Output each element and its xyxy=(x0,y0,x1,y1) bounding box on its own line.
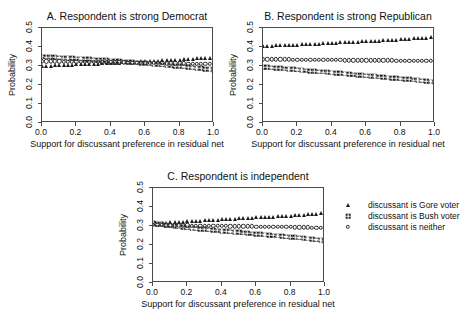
panel-title: B. Respondent is strong Republican xyxy=(262,10,434,22)
y-tick xyxy=(38,103,42,104)
x-tick xyxy=(152,282,153,286)
x-tick-label: 0.4 xyxy=(325,127,337,137)
y-tick-label: 0.0 xyxy=(245,116,255,128)
y-tick-label: 0.5 xyxy=(245,21,255,33)
x-tick-label: 0.4 xyxy=(104,127,116,137)
y-tick-label: 0.2 xyxy=(245,78,255,90)
x-tick xyxy=(331,122,332,126)
x-tick xyxy=(255,282,256,286)
plot-area xyxy=(152,187,324,282)
y-tick xyxy=(38,84,42,85)
x-tick-label: 0.0 xyxy=(146,287,158,297)
data-plane xyxy=(42,28,212,121)
y-tick xyxy=(149,282,153,283)
panel-title: C. Respondent is independent xyxy=(152,170,324,182)
y-axis-title: Probability xyxy=(7,53,17,95)
y-tick-label: 0.5 xyxy=(135,181,145,193)
y-tick xyxy=(149,206,153,207)
x-tick xyxy=(434,122,435,126)
x-axis-title: Support for discussant preference in res… xyxy=(141,299,335,309)
y-tick-label: 0.1 xyxy=(135,257,145,269)
y-tick xyxy=(259,27,263,28)
legend-label: discussant is Gore voter xyxy=(368,200,459,210)
x-tick xyxy=(144,122,145,126)
x-tick-label: 0.8 xyxy=(173,127,185,137)
y-tick-label: 0.0 xyxy=(135,276,145,288)
x-tick-label: 0.6 xyxy=(138,127,150,137)
legend-label: discussant is Bush voter xyxy=(368,211,460,221)
x-tick-label: 0.0 xyxy=(35,127,47,137)
x-tick xyxy=(186,282,187,286)
y-tick xyxy=(38,122,42,123)
x-tick-label: 0.2 xyxy=(180,287,192,297)
y-tick-label: 0.4 xyxy=(245,40,255,52)
x-tick xyxy=(296,122,297,126)
y-tick-label: 0.2 xyxy=(24,78,34,90)
y-tick-label: 0.3 xyxy=(245,59,255,71)
legend-circle-icon xyxy=(346,225,350,229)
y-tick xyxy=(149,225,153,226)
x-tick-label: 0.4 xyxy=(215,287,227,297)
y-tick xyxy=(149,187,153,188)
x-tick xyxy=(41,122,42,126)
x-tick xyxy=(290,282,291,286)
x-tick-label: 0.2 xyxy=(290,127,302,137)
plot-area xyxy=(41,27,213,122)
x-tick xyxy=(179,122,180,126)
y-tick xyxy=(149,263,153,264)
y-tick-label: 0.1 xyxy=(245,97,255,109)
x-tick xyxy=(324,282,325,286)
legend-asterisk-icon xyxy=(346,214,351,219)
y-tick xyxy=(259,65,263,66)
y-tick-label: 0.5 xyxy=(24,21,34,33)
x-tick xyxy=(75,122,76,126)
x-tick xyxy=(262,122,263,126)
legend-triangle-icon xyxy=(346,203,350,207)
x-tick-label: 0.0 xyxy=(256,127,268,137)
x-tick-label: 1.0 xyxy=(318,287,330,297)
chart-panel-b: B. Respondent is strong Republican0.00.2… xyxy=(226,10,442,150)
y-tick xyxy=(259,103,263,104)
y-tick xyxy=(259,122,263,123)
y-tick xyxy=(38,65,42,66)
y-axis-title: Probability xyxy=(118,213,128,255)
y-tick xyxy=(38,27,42,28)
y-tick-label: 0.3 xyxy=(135,219,145,231)
x-tick xyxy=(400,122,401,126)
chart-panel-a: A. Respondent is strong Democrat0.00.20.… xyxy=(5,10,221,150)
y-tick xyxy=(149,244,153,245)
x-tick-label: 1.0 xyxy=(207,127,219,137)
y-tick-label: 0.1 xyxy=(24,97,34,109)
y-axis-title: Probability xyxy=(228,53,238,95)
plot-area xyxy=(262,27,434,122)
y-tick xyxy=(259,46,263,47)
data-plane xyxy=(263,28,433,121)
x-tick-label: 0.2 xyxy=(69,127,81,137)
x-tick xyxy=(213,122,214,126)
x-tick-label: 1.0 xyxy=(428,127,440,137)
x-tick-label: 0.6 xyxy=(249,287,261,297)
x-axis-title: Support for discussant preference in res… xyxy=(30,139,224,149)
y-tick-label: 0.4 xyxy=(24,40,34,52)
x-tick-label: 0.8 xyxy=(284,287,296,297)
y-tick xyxy=(259,84,263,85)
panel-title: A. Respondent is strong Democrat xyxy=(41,10,213,22)
legend-label: discussant is neither xyxy=(368,222,445,232)
x-tick-label: 0.6 xyxy=(359,127,371,137)
y-tick-label: 0.4 xyxy=(135,200,145,212)
x-tick xyxy=(221,282,222,286)
y-tick-label: 0.2 xyxy=(135,238,145,250)
x-axis-title: Support for discussant preference in res… xyxy=(251,139,445,149)
data-plane xyxy=(153,188,323,281)
x-tick-label: 0.8 xyxy=(394,127,406,137)
y-tick xyxy=(38,46,42,47)
x-tick xyxy=(110,122,111,126)
x-tick xyxy=(365,122,366,126)
y-tick-label: 0.3 xyxy=(24,59,34,71)
chart-panel-c: C. Respondent is independent0.00.20.40.6… xyxy=(116,170,332,310)
y-tick-label: 0.0 xyxy=(24,116,34,128)
